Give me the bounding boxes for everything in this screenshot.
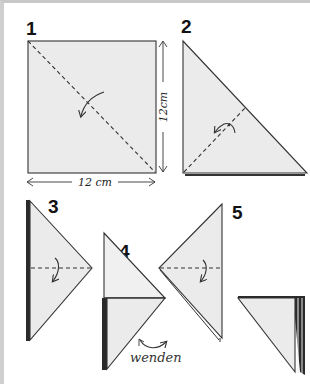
step-1: 1 12cm 12 cm [26, 18, 170, 189]
step-3: 3 [26, 196, 92, 341]
triangle-paper [183, 41, 307, 173]
folded-edge [26, 200, 30, 341]
step-number: 1 [26, 18, 37, 39]
step-2: 2 [181, 16, 307, 175]
triangle-paper [159, 204, 222, 338]
turn-over-arrow-icon [140, 340, 166, 348]
width-label: 12 cm [78, 176, 112, 189]
triangle-paper [238, 298, 295, 372]
folded-edge [102, 298, 107, 370]
width-dimension: 12 cm [27, 176, 155, 189]
step-4: 4 wenden [102, 233, 182, 370]
height-dimension: 12cm [157, 41, 170, 172]
height-label: 12cm [157, 92, 170, 123]
origami-diagram: 1 12cm 12 cm 2 3 [0, 0, 310, 384]
turn-over-label: wenden [130, 350, 182, 365]
triangle-top [104, 233, 165, 298]
step-6: 6 [238, 296, 305, 375]
step-number: 2 [181, 16, 192, 37]
step-5: 5 [159, 202, 243, 342]
triangle-paper [30, 201, 92, 340]
step-number: 3 [48, 196, 59, 217]
step-number: 5 [232, 202, 243, 223]
